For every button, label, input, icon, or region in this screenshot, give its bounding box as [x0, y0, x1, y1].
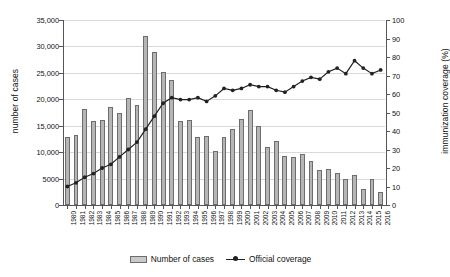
- x-tick-label: 1999: [236, 211, 243, 225]
- x-tick-mark: [198, 206, 199, 209]
- coverage-data-point: [257, 85, 261, 89]
- x-tick-mark: [381, 206, 382, 209]
- y-tick-label-right: 0: [392, 201, 422, 210]
- x-tick-mark: [372, 206, 373, 209]
- coverage-data-point: [274, 88, 278, 92]
- x-tick-label: 1996: [210, 211, 217, 225]
- x-tick-mark: [224, 206, 225, 209]
- y-tick-label-left: 20,000: [15, 95, 59, 104]
- x-tick-mark: [294, 206, 295, 209]
- x-tick-label: 1987: [131, 211, 138, 225]
- y-tick-label-right: 30: [392, 146, 422, 155]
- x-tick-mark: [268, 206, 269, 209]
- x-tick-mark: [154, 206, 155, 209]
- x-tick-label: 1991: [166, 211, 173, 225]
- x-tick-label: 1981: [79, 211, 86, 225]
- x-tick-label: 1993: [183, 211, 190, 225]
- coverage-data-point: [74, 181, 78, 185]
- x-tick-label: 1982: [88, 211, 95, 225]
- x-tick-mark: [311, 206, 312, 209]
- coverage-data-point: [318, 77, 322, 81]
- coverage-data-point: [335, 66, 339, 70]
- x-tick-mark: [363, 206, 364, 209]
- x-tick-mark: [241, 206, 242, 209]
- x-tick-label: 2003: [271, 211, 278, 225]
- x-tick-label: 1998: [227, 211, 234, 225]
- x-tick-mark: [76, 206, 77, 209]
- x-tick-label: 1986: [123, 211, 130, 225]
- x-tick-label: 1988: [140, 211, 147, 225]
- coverage-data-point: [135, 140, 139, 144]
- x-tick-label: 2013: [358, 211, 365, 225]
- coverage-data-point: [344, 72, 348, 76]
- x-tick-mark: [146, 206, 147, 209]
- x-tick-label: 1997: [218, 211, 225, 225]
- x-tick-mark: [233, 206, 234, 209]
- x-tick-label: 2008: [314, 211, 321, 225]
- coverage-data-point: [109, 162, 113, 166]
- x-tick-label: 2010: [331, 211, 338, 225]
- x-tick-mark: [259, 206, 260, 209]
- x-tick-label: 2009: [323, 211, 330, 225]
- coverage-data-point: [196, 96, 200, 100]
- y-tick-label-right: 50: [392, 109, 422, 118]
- coverage-data-point: [327, 70, 331, 74]
- x-tick-label: 1980: [70, 211, 77, 225]
- x-tick-label: 2002: [262, 211, 269, 225]
- x-tick-mark: [337, 206, 338, 209]
- x-tick-mark: [346, 206, 347, 209]
- x-tick-mark: [163, 206, 164, 209]
- coverage-data-point: [179, 98, 183, 102]
- coverage-data-point: [161, 101, 165, 105]
- chart-legend: Number of cases Official coverage: [0, 254, 441, 264]
- y-tick-label-right: 60: [392, 90, 422, 99]
- x-tick-mark: [93, 206, 94, 209]
- x-tick-label: 2006: [297, 211, 304, 225]
- x-tick-mark: [128, 206, 129, 209]
- y-tick-label-right: 90: [392, 35, 422, 44]
- legend-item-official-coverage: Official coverage: [226, 254, 311, 264]
- coverage-data-point: [187, 98, 191, 102]
- legend-label-number-of-cases: Number of cases: [151, 254, 214, 264]
- coverage-data-point: [283, 90, 287, 94]
- coverage-data-point: [126, 148, 130, 152]
- x-tick-mark: [111, 206, 112, 209]
- coverage-data-point: [309, 75, 313, 79]
- x-tick-mark: [320, 206, 321, 209]
- coverage-data-point: [379, 68, 383, 72]
- x-tick-mark: [120, 206, 121, 209]
- y-tick-label-left: 10,000: [15, 148, 59, 157]
- coverage-data-point: [370, 72, 374, 76]
- coverage-data-point: [300, 79, 304, 83]
- x-tick-label: 2014: [366, 211, 373, 225]
- x-tick-mark: [285, 206, 286, 209]
- y-tick-label-left: 35,000: [15, 16, 59, 25]
- line-marker-icon: [226, 255, 245, 263]
- y-tick-label-left: 30,000: [15, 42, 59, 51]
- x-tick-mark: [85, 206, 86, 209]
- x-tick-mark: [67, 206, 68, 209]
- coverage-data-point: [144, 127, 148, 131]
- y-tick-label-left: 5000: [15, 175, 59, 184]
- y-tick-label-right: 70: [392, 72, 422, 81]
- coverage-data-point: [361, 66, 365, 70]
- x-tick-label: 2015: [375, 211, 382, 225]
- x-tick-label: 1983: [96, 211, 103, 225]
- x-tick-mark: [189, 206, 190, 209]
- x-tick-label: 2001: [253, 211, 260, 225]
- coverage-data-point: [92, 172, 96, 176]
- coverage-data-point: [240, 87, 244, 91]
- y-tick-label-left: 0: [15, 201, 59, 210]
- x-tick-label: 1985: [114, 211, 121, 225]
- y-tick-label-left: 15,000: [15, 122, 59, 131]
- coverage-data-point: [65, 185, 69, 189]
- x-tick-label: 2007: [305, 211, 312, 225]
- x-tick-label: 2011: [340, 211, 347, 225]
- y-tick-label-right: 80: [392, 53, 422, 62]
- x-tick-mark: [302, 206, 303, 209]
- coverage-data-point: [266, 85, 270, 89]
- x-tick-label: 1995: [201, 211, 208, 225]
- x-tick-mark: [102, 206, 103, 209]
- x-tick-label: 2016: [384, 211, 391, 225]
